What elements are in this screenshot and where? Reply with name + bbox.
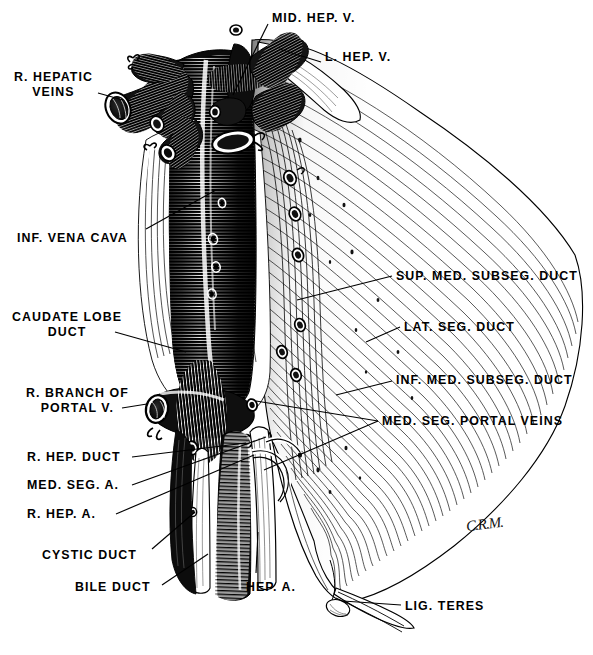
label-r-hep-a: R. HEP. A. [27, 507, 96, 522]
label-hep-a: HEP. A. [246, 580, 296, 595]
label-inf-vena-cava: INF. VENA CAVA [17, 231, 128, 246]
label-lat-seg-duct: LAT. SEG. DUCT [404, 320, 515, 335]
anatomical-plate: MID. HEP. V.L. HEP. V.R. HEPATIC VEINSIN… [0, 0, 593, 655]
hepatic-vein-ostium-center [230, 25, 242, 35]
label-mid-hep-v: MID. HEP. V. [272, 11, 356, 26]
label-med-seg-portal-veins: MED. SEG. PORTAL VEINS [382, 414, 563, 429]
label-sup-med-subseg-duct: SUP. MED. SUBSEG. DUCT [396, 269, 578, 284]
label-l-hep-v: L. HEP. V. [325, 50, 391, 65]
label-inf-med-subseg-duct: INF. MED. SUBSEG. DUCT [396, 373, 573, 388]
label-lig-teres: LIG. TERES [405, 599, 484, 614]
label-med-seg-a: MED. SEG. A. [27, 478, 119, 493]
label-r-hepatic-veins: R. HEPATIC VEINS [14, 70, 93, 100]
label-r-hep-duct: R. HEP. DUCT [27, 450, 121, 465]
label-cystic-duct: CYSTIC DUCT [42, 548, 137, 563]
label-caudate-lobe-duct: CAUDATE LOBE DUCT [12, 310, 122, 340]
label-bile-duct: BILE DUCT [75, 580, 151, 595]
label-r-branch-portal-v: R. BRANCH OF PORTAL V. [26, 386, 129, 416]
bile-duct-trunk [214, 431, 253, 601]
